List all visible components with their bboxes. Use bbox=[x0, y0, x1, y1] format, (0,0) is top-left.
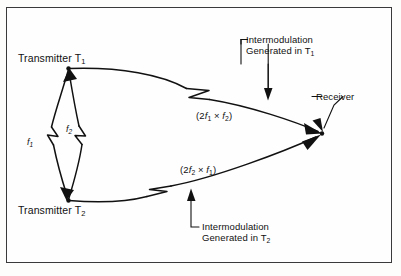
receiver-label: Receiver bbox=[316, 91, 354, 102]
bottom-path-product-label: (2f2 × f1) bbox=[180, 164, 216, 177]
annotation-t1-line1: Intermodulation bbox=[246, 34, 314, 45]
annotation-intermodulation-t1: Intermodulation Generated in T1 bbox=[246, 34, 314, 58]
node-dot-t2 bbox=[66, 198, 70, 202]
path-f1-zigzag-break bbox=[48, 127, 59, 145]
frequency-f1-label: f1 bbox=[27, 137, 33, 148]
annotation-intermodulation-t2: Intermodulation Generated in T2 bbox=[202, 221, 270, 245]
annotation-t2-line1: Intermodulation bbox=[202, 221, 270, 232]
transmitter-2-label: Transmitter T2 bbox=[18, 204, 85, 219]
path-t2-to-receiver-segment-b bbox=[171, 137, 316, 186]
node-dot-receiver bbox=[320, 131, 324, 135]
transmitter-1-label: Transmitter T1 bbox=[18, 52, 85, 67]
diagram-artwork bbox=[0, 0, 401, 276]
arrowhead-bottom-path-at-receiver bbox=[302, 135, 321, 151]
path-t1-zigzag-break bbox=[187, 89, 210, 100]
path-t2-zigzag-break bbox=[147, 186, 171, 197]
path-t2-to-receiver-segment-a bbox=[69, 197, 148, 202]
frequency-f2-label: f2 bbox=[66, 124, 72, 135]
arrowhead-f2-at-t1 bbox=[63, 69, 77, 83]
path-f2-zigzag-break bbox=[75, 126, 86, 145]
annotation-t1-line2: Generated in T1 bbox=[246, 45, 314, 58]
top-path-product-label: (2f1 × f2) bbox=[196, 110, 232, 123]
path-f1-segment-b bbox=[54, 145, 67, 194]
diagram-page: Transmitter T1 Transmitter T2 f1 f2 (2f1… bbox=[0, 0, 401, 276]
path-f2-segment-b bbox=[70, 75, 80, 126]
path-t1-to-receiver-segment-a bbox=[69, 68, 187, 88]
annotation-t2-line2: Generated in T2 bbox=[202, 232, 270, 245]
